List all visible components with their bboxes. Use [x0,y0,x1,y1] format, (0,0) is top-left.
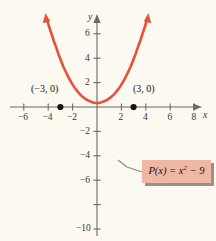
function-suffix: − 9 [187,165,205,176]
x-tick-label-neg6: −6 [18,113,28,123]
y-tick-label-neg4: −4 [80,151,90,161]
y-axis [93,14,100,236]
x-tick-label-4: 4 [143,113,148,123]
root-dot-right [131,104,137,110]
function-equation: P(x) = x2 − 9 [148,166,204,177]
parabola-figure: −6 −4 −2 2 4 6 8 2 4 6 −2 −4 −6 −10 y x … [0,0,216,241]
y-axis-label: y [88,12,92,22]
x-tick-label-6: 6 [168,113,173,123]
y-tick-label-6: 6 [85,29,90,39]
x-tick-label-neg2: −2 [67,113,77,123]
function-prefix: P(x) = x [148,165,183,176]
x-axis [10,103,202,110]
callout-leader-line [118,160,142,172]
y-tick-label-neg2: −2 [80,127,90,137]
x-tick-label-neg4: −4 [43,113,53,123]
x-tick-label-8: 8 [192,113,197,123]
plot-canvas [0,0,216,241]
root-label-left: (−3, 0) [31,84,58,94]
root-dot-left [57,104,63,110]
y-tick-label-neg6: −6 [80,176,90,186]
y-tick-label-4: 4 [85,54,90,64]
x-axis-label: x [203,110,207,120]
root-label-right: (3, 0) [133,84,155,94]
y-tick-label-neg10: −10 [76,224,91,234]
function-callout: P(x) = x2 − 9 [142,160,211,183]
y-tick-label-2: 2 [85,78,90,88]
x-tick-label-2: 2 [119,113,124,123]
